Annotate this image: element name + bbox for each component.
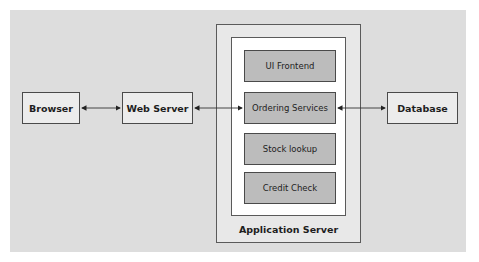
connector-arrows bbox=[0, 0, 479, 262]
